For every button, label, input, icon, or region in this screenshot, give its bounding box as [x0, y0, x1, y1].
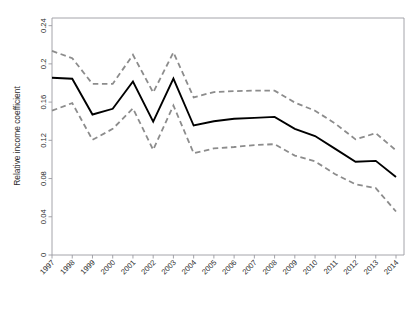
y-tick-label: 0.2 — [39, 59, 48, 70]
x-tick-label: 2005 — [200, 258, 218, 276]
x-tick-label: 1999 — [79, 258, 97, 276]
y-axis-label: Relative income coefficient — [12, 86, 22, 186]
x-tick-label: 2010 — [301, 258, 319, 276]
axis-frame — [52, 18, 404, 255]
x-tick-label: 2003 — [160, 258, 178, 276]
line-chart: 00.040.080.120.160.20.24 199719981999200… — [0, 0, 417, 311]
x-tick-label: 2011 — [322, 258, 340, 276]
x-tick-label: 2012 — [342, 258, 360, 276]
x-tick-label: 2004 — [180, 258, 198, 276]
y-tick-label: 0.16 — [39, 95, 48, 110]
y-tick-label: 0 — [39, 253, 48, 257]
y-tick-label: 0.04 — [39, 209, 48, 224]
x-tick-label: 2007 — [240, 258, 258, 276]
chart-figure: 00.040.080.120.160.20.24 199719981999200… — [0, 0, 417, 311]
x-tick-label: 2000 — [99, 258, 117, 276]
series-line-0 — [52, 78, 396, 177]
x-tick-label: 2008 — [261, 258, 279, 276]
y-tick-label: 0.08 — [39, 171, 48, 186]
y-axis: 00.040.080.120.160.20.24 — [39, 18, 52, 257]
x-tick-label: 2006 — [220, 258, 238, 276]
x-tick-label: 2014 — [382, 258, 400, 276]
series-group — [52, 51, 396, 212]
x-tick-label: 2001 — [119, 258, 137, 276]
x-tick-label: 2009 — [281, 258, 299, 276]
y-tick-label: 0.24 — [39, 18, 48, 33]
x-tick-label: 2013 — [362, 258, 380, 276]
x-tick-label: 1997 — [38, 258, 56, 276]
y-tick-label: 0.12 — [39, 133, 48, 148]
x-axis: 1997199819992000200120022003200420052006… — [38, 255, 400, 276]
series-line-1 — [52, 51, 396, 150]
x-tick-label: 1998 — [58, 258, 76, 276]
x-tick-label: 2002 — [139, 258, 157, 276]
